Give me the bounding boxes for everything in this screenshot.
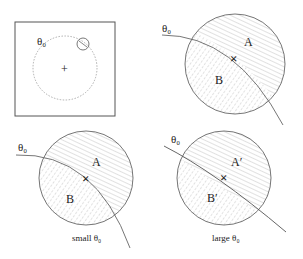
region-a-label: A [244, 35, 253, 49]
region-a-label: A [92, 155, 101, 169]
diagram-canvas: θ₀ + θ₀ A B × θ₀ A B × small θ₀ [0, 0, 303, 259]
theta-label: θ₀ [171, 133, 180, 145]
center-marker: × [230, 51, 237, 66]
panel-overview: θ₀ + [15, 22, 115, 116]
panel-large-theta: θ₀ A′ B′ × large θ₀ [163, 130, 303, 259]
region-a-label: A′ [231, 155, 243, 169]
region-b-label: B′ [207, 191, 218, 205]
center-marker: × [220, 170, 227, 185]
panel-top-right: θ₀ A B × [150, 0, 303, 130]
center-marker: × [82, 171, 89, 186]
center-marker: + [61, 62, 68, 76]
caption: large θ₀ [212, 233, 240, 243]
region-b-label: B [66, 192, 74, 206]
theta-label: θ₀ [37, 35, 46, 47]
panel-small-theta: θ₀ A B × small θ₀ [15, 130, 150, 259]
caption: small θ₀ [72, 233, 101, 243]
region-b-label: B [215, 73, 223, 87]
theta-label: θ₀ [18, 141, 27, 153]
theta-label: θ₀ [162, 22, 171, 34]
